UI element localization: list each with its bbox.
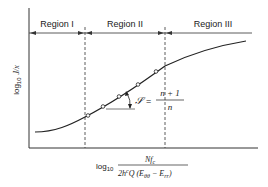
region-diagram: Region I Region II Region III 𝒮 = n + 1 … — [0, 0, 268, 187]
slope-arrow-bottom — [128, 104, 132, 109]
x-label-log: log — [96, 162, 107, 171]
y-axis-label: log10J/x — [12, 65, 22, 95]
arrow-right-region-2 — [158, 31, 164, 35]
x-label-sub: 10 — [107, 166, 114, 172]
data-point — [136, 83, 140, 87]
arrow-left-region-3 — [166, 31, 172, 35]
arrow-left-region-1 — [30, 31, 36, 35]
response-curve — [35, 41, 246, 132]
svg-text:2hcQ (Eθθ − Err): 2hcQ (Eθθ − Err) — [118, 168, 172, 179]
y-label-log: log — [12, 84, 21, 95]
slope-denominator: n — [168, 102, 173, 112]
svg-text:Nfc: Nfc — [144, 155, 156, 165]
data-point — [117, 95, 121, 99]
data-point — [154, 70, 158, 74]
slope-symbol: 𝒮 — [135, 95, 146, 106]
region-2-label: Region II — [107, 19, 143, 29]
x-denominator-d: ) — [168, 169, 172, 178]
x-denominator-c: − E — [150, 169, 164, 178]
data-point — [86, 114, 90, 118]
x-axis-label: log10 Nfc 2hcQ (Eθθ − Err) — [96, 155, 188, 179]
y-label-var: J/x — [12, 65, 21, 75]
x-denominator-a: 2h — [118, 169, 126, 178]
region-1-label: Region I — [40, 19, 74, 29]
x-denominator-b: Q (E — [129, 169, 144, 178]
arrow-left-region-2 — [86, 31, 92, 35]
y-label-sub: 10 — [16, 77, 22, 84]
data-point — [101, 105, 105, 109]
svg-text:log10J/x: log10J/x — [12, 65, 22, 95]
slope-equals: = — [146, 96, 151, 106]
x-numerator-sub: c — [152, 159, 155, 165]
slope-numerator: n + 1 — [160, 88, 180, 98]
arrow-right-region-1 — [78, 31, 84, 35]
svg-text:log10: log10 — [96, 162, 114, 172]
region-3-label: Region III — [194, 19, 233, 29]
